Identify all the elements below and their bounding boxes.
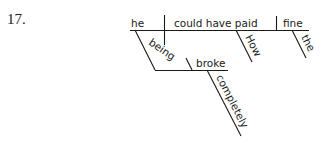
verb-word: could have paid — [174, 17, 258, 29]
broke-word: broke — [196, 57, 225, 69]
how-word: How — [243, 32, 264, 58]
subject-word: he — [131, 17, 144, 29]
participle-slant-line — [135, 30, 155, 70]
object-word: fine — [283, 17, 303, 29]
complement-divider — [186, 58, 192, 70]
being-word: being — [147, 36, 178, 63]
sentence-diagram: he could have paid fine How the being br… — [0, 0, 323, 143]
